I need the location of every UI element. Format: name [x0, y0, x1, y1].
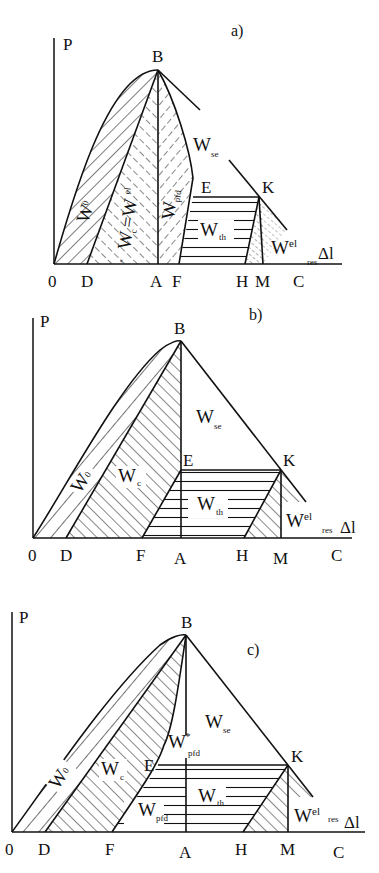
energy-diagram-figure: a) P Δl B E K 0 D A F H M C W 0 " W c =W… — [0, 0, 379, 873]
tick-labels-c: 0 D F A H M C — [5, 840, 344, 862]
tick-labels-a: 0 D A F H M C — [48, 272, 304, 291]
point-e-c: E — [144, 756, 154, 775]
svg-text:res: res — [307, 257, 318, 267]
point-k-b: K — [283, 451, 296, 470]
svg-text:se: se — [214, 421, 222, 431]
region-label-wc-b: W c — [116, 465, 146, 488]
svg-text:pfd: pfd — [172, 189, 183, 202]
svg-text:c: c — [137, 478, 141, 488]
panel-tag-a: a) — [231, 22, 243, 40]
region-label-wel-a: W el res — [271, 237, 318, 267]
point-b-c: B — [181, 613, 192, 632]
svg-text:res: res — [322, 525, 333, 535]
svg-text:c: c — [120, 772, 124, 782]
svg-text:=W: =W — [116, 197, 141, 228]
svg-text:W: W — [205, 711, 223, 732]
svg-text:W: W — [196, 406, 214, 427]
svg-text:W: W — [193, 134, 211, 155]
svg-text:se: se — [211, 149, 219, 159]
svg-text:F: F — [136, 546, 145, 565]
svg-text:W: W — [101, 758, 119, 779]
svg-text:0: 0 — [48, 272, 57, 291]
y-axis-label-a: P — [63, 35, 72, 54]
svg-text:pfd: pfd — [188, 748, 200, 758]
svg-text:H: H — [236, 272, 248, 291]
region-label-wse-c: W se — [205, 711, 231, 735]
svg-text:H: H — [235, 840, 247, 859]
region-label-wse-b: W se — [196, 406, 222, 431]
point-k-c: K — [291, 747, 304, 766]
svg-text:0: 0 — [5, 840, 14, 859]
svg-text:H: H — [236, 546, 248, 565]
point-b-a: B — [152, 47, 163, 66]
svg-text:res: res — [328, 814, 339, 824]
svg-text:W: W — [286, 510, 304, 531]
point-b-b: B — [174, 319, 185, 338]
svg-text:W: W — [200, 219, 218, 240]
x-axis-label-a: Δl — [318, 244, 334, 263]
point-e-a: E — [201, 178, 211, 197]
svg-text:W: W — [168, 731, 186, 752]
svg-text:F: F — [172, 272, 181, 291]
panel-a: a) P Δl B E K 0 D A F H M C W 0 " W c =W… — [48, 22, 342, 291]
region-label-wel-b: W el res — [286, 510, 333, 535]
svg-text:el: el — [312, 805, 320, 817]
svg-text:D: D — [38, 840, 50, 859]
svg-text:F: F — [105, 840, 114, 859]
svg-text:W: W — [197, 493, 215, 514]
point-e-b: E — [183, 451, 193, 470]
svg-text:W: W — [294, 805, 312, 826]
region-label-wpfd-star-c: W * pfd — [168, 730, 200, 758]
svg-text:th: th — [217, 798, 225, 808]
svg-text:A: A — [150, 272, 163, 291]
svg-text:A: A — [179, 843, 192, 862]
svg-text:D: D — [60, 546, 72, 565]
svg-text:W: W — [138, 799, 156, 820]
y-axis-label-c: P — [19, 608, 28, 627]
svg-text:th: th — [219, 232, 227, 242]
svg-text:W: W — [271, 237, 289, 258]
svg-text:0: 0 — [28, 546, 37, 565]
svg-text:el: el — [289, 237, 297, 249]
svg-text:el: el — [304, 510, 312, 522]
svg-text:D: D — [81, 272, 93, 291]
svg-text:*: * — [185, 730, 191, 742]
region-label-wth-a: W th — [198, 219, 234, 242]
svg-text:W: W — [157, 200, 180, 220]
svg-text:C: C — [333, 843, 344, 862]
svg-text:M: M — [273, 549, 288, 568]
svg-text:se: se — [223, 725, 231, 735]
svg-text:C: C — [331, 546, 342, 565]
panel-tag-c: c) — [247, 641, 259, 659]
svg-text:th: th — [216, 507, 224, 517]
y-axis-label-b: P — [40, 312, 49, 331]
svg-text:pfd: pfd — [156, 813, 168, 823]
x-axis-label-c: Δl — [344, 813, 360, 832]
panel-c: c) P Δl B E K 0 D F A H M C W 0 W c W * … — [5, 608, 365, 862]
panel-tag-b: b) — [249, 306, 262, 324]
region-label-wc-c: W c — [99, 758, 127, 782]
svg-text:W: W — [198, 785, 216, 806]
point-k-a: K — [262, 178, 275, 197]
svg-text:W: W — [118, 465, 136, 486]
svg-text:A: A — [174, 549, 187, 568]
panel-b: b) P Δl B E K 0 D F A H M C W 0 W c W se — [28, 306, 356, 568]
svg-text:C: C — [293, 272, 304, 291]
region-label-wse-a: W se — [193, 134, 219, 159]
x-axis-label-b: Δl — [340, 518, 356, 537]
svg-text:M: M — [280, 840, 295, 859]
tick-labels-b: 0 D F A H M C — [28, 546, 342, 568]
svg-text:M: M — [255, 272, 270, 291]
